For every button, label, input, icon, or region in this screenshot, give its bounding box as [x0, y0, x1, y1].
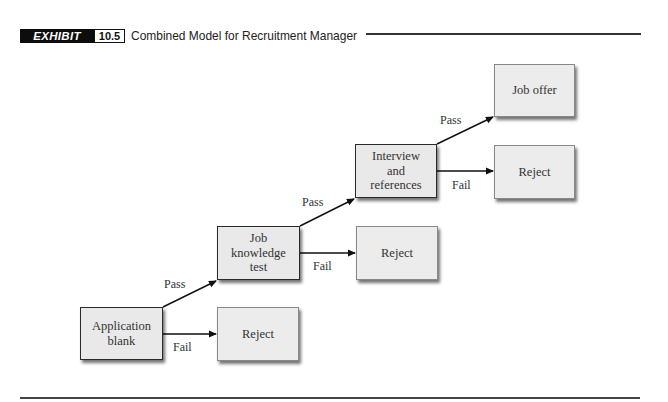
outcome-reject-interview: Reject: [494, 145, 575, 199]
stage-label-line: Job: [231, 231, 286, 246]
stage-label-line: blank: [92, 334, 151, 349]
stage-label-line: and: [370, 164, 421, 179]
outcome-label: Reject: [242, 327, 274, 342]
footer-rule: [20, 397, 640, 399]
edge-label-pass: Pass: [302, 195, 323, 209]
edge-label-pass: Pass: [440, 113, 461, 127]
stage-label-line: Application: [92, 319, 151, 334]
edge-label-fail: Fail: [452, 178, 471, 192]
outcome-job-offer: Job offer: [494, 64, 575, 117]
outcome-label: Reject: [519, 165, 551, 180]
outcome-label: Job offer: [512, 83, 557, 98]
outcome-reject-knowledge: Reject: [356, 226, 438, 280]
stage-label-line: Interview: [370, 149, 421, 164]
stage-label-line: knowledge: [231, 246, 286, 261]
stage-interview-references: Interview and references: [355, 144, 437, 198]
edge-label-fail: Fail: [313, 259, 332, 273]
stage-label-line: references: [370, 178, 421, 193]
outcome-label: Reject: [381, 246, 413, 261]
stage-application-blank: Application blank: [80, 307, 163, 360]
edge-label-pass: Pass: [164, 277, 185, 291]
stage-job-knowledge-test: Job knowledge test: [217, 226, 300, 280]
edge-label-fail: Fail: [173, 340, 192, 354]
stage-label-line: test: [231, 260, 286, 275]
outcome-reject-application: Reject: [217, 307, 299, 361]
